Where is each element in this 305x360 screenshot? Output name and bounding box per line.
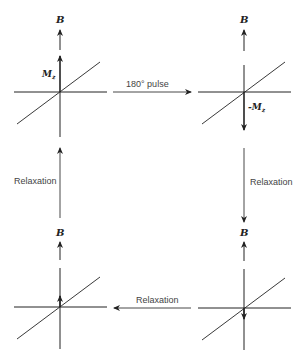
transition-relaxation-bottom: Relaxation	[114, 295, 191, 308]
field-label: B	[239, 227, 248, 238]
panel-top-left: B Mz	[14, 14, 107, 137]
transition-relaxation-left: Relaxation	[14, 148, 60, 218]
diagonal-axis	[17, 62, 100, 124]
panel-top-right: B -Mz	[198, 14, 291, 130]
magnetization-label: -Mz	[248, 102, 266, 113]
transition-pulse: 180° pulse	[113, 79, 191, 92]
panel-bottom-left: B	[14, 227, 107, 349]
transition-label: Relaxation	[14, 176, 57, 186]
field-label: B	[55, 227, 64, 238]
diagonal-axis	[17, 277, 100, 339]
field-label: B	[239, 14, 248, 25]
transition-relaxation-right: Relaxation	[244, 148, 293, 222]
panel-bottom-right: B	[198, 227, 291, 350]
transition-label: Relaxation	[250, 177, 293, 187]
field-label: B	[55, 14, 64, 25]
transition-label: 180° pulse	[126, 79, 169, 89]
transition-label: Relaxation	[136, 295, 179, 305]
nmr-relaxation-diagram: B Mz B -Mz B B 180° pulse Relax	[0, 0, 305, 360]
magnetization-label: Mz	[41, 69, 56, 80]
